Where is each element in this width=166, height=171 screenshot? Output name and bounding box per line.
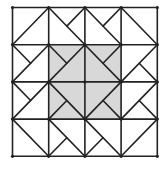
- cell-half-diagonal: [13, 45, 31, 64]
- vertex-dot: [120, 6, 123, 9]
- vertex-dot: [156, 80, 159, 83]
- vertex-dot: [11, 118, 14, 121]
- vertex-dot: [11, 43, 14, 46]
- vertex-dot: [156, 155, 159, 158]
- vertex-dot: [47, 6, 50, 9]
- cell-diagonal: [121, 8, 157, 45]
- vertex-dot: [83, 155, 86, 158]
- cell-half-diagonal: [13, 82, 31, 101]
- cell-diagonal: [13, 119, 49, 156]
- cell-diagonal: [13, 8, 49, 45]
- cell-half-diagonal: [139, 101, 157, 120]
- vertex-dot: [11, 80, 14, 83]
- vertex-dot: [83, 118, 86, 121]
- vertex-dot: [11, 6, 14, 9]
- vertex-dot: [83, 43, 86, 46]
- cell-half-diagonal: [67, 8, 85, 27]
- cell-half-diagonal: [85, 138, 103, 157]
- vertex-dot: [47, 118, 50, 121]
- vertex-dot: [120, 43, 123, 46]
- vertex-dot: [120, 118, 123, 121]
- vertex-dot: [47, 155, 50, 158]
- cell-half-diagonal: [139, 63, 157, 82]
- cell-half-diagonal: [103, 8, 121, 27]
- vertex-dot: [47, 43, 50, 46]
- vertex-dot: [156, 118, 159, 121]
- vertex-dot: [120, 80, 123, 83]
- cell-diagonal: [121, 119, 157, 156]
- vertex-dot: [11, 155, 14, 158]
- vertex-dot: [83, 80, 86, 83]
- quilt-block-diagram: [0, 0, 166, 171]
- vertex-dot: [120, 155, 123, 158]
- vertex-dot: [156, 43, 159, 46]
- vertex-dot: [83, 6, 86, 9]
- vertex-dot: [47, 80, 50, 83]
- cell-half-diagonal: [49, 138, 67, 157]
- vertex-dot: [156, 6, 159, 9]
